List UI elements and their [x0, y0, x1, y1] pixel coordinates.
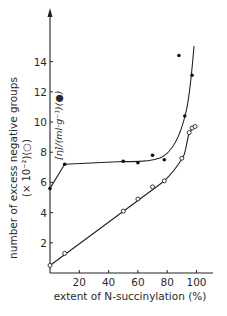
x-tick-label: 20 — [73, 276, 86, 288]
x-tick-label: 100 — [186, 276, 206, 288]
open-circle-point — [151, 185, 155, 189]
open-circle-point — [180, 156, 184, 160]
y-axis-arrow-icon — [48, 8, 53, 17]
filled-circle-point — [136, 161, 140, 165]
filled-circle-point — [63, 162, 67, 166]
y-tick-label: 12 — [34, 86, 47, 98]
open-series-fit-line — [50, 127, 195, 266]
chart: 20406080100 2468101214 number of excess … — [0, 0, 227, 316]
filled-series-fit-line — [50, 46, 194, 188]
filled-circle-point — [183, 114, 187, 118]
filled-circle-point — [48, 187, 52, 191]
open-circle-point — [136, 197, 140, 201]
filled-circle-point — [177, 54, 181, 58]
open-circle-point — [121, 209, 125, 213]
filled-circle-point — [151, 153, 155, 157]
x-tick-label: 60 — [131, 276, 144, 288]
y-tick-label: 10 — [34, 116, 47, 128]
y-tick-label: 14 — [34, 56, 48, 68]
x-tick-label: 80 — [161, 276, 174, 288]
y-axis-label: number of excess negative groups — [7, 77, 19, 259]
filled-circle-point — [121, 159, 125, 163]
open-circle-point — [187, 131, 191, 135]
open-circle-point — [193, 125, 197, 129]
y-tick-label: 6 — [40, 176, 47, 188]
open-circle-point — [48, 263, 52, 267]
open-circle-point — [162, 179, 166, 183]
axes — [48, 8, 214, 273]
y-tick-label: 8 — [40, 146, 47, 158]
data-points — [48, 54, 197, 268]
y-tick-label: 2 — [40, 237, 47, 249]
y-axis-label-unit: (× 10⁻²)(○) — [21, 139, 32, 197]
filled-circle-point — [190, 73, 194, 77]
filled-circle-point — [162, 158, 166, 162]
inner-axis-label: [η]/(ml·g⁻¹)(●) — [53, 90, 64, 160]
open-circle-point — [63, 251, 67, 255]
x-tick-label: 40 — [102, 276, 115, 288]
x-axis-label: extent of N-succinylation (%) — [54, 290, 207, 302]
y-tick-label: 4 — [40, 207, 47, 219]
